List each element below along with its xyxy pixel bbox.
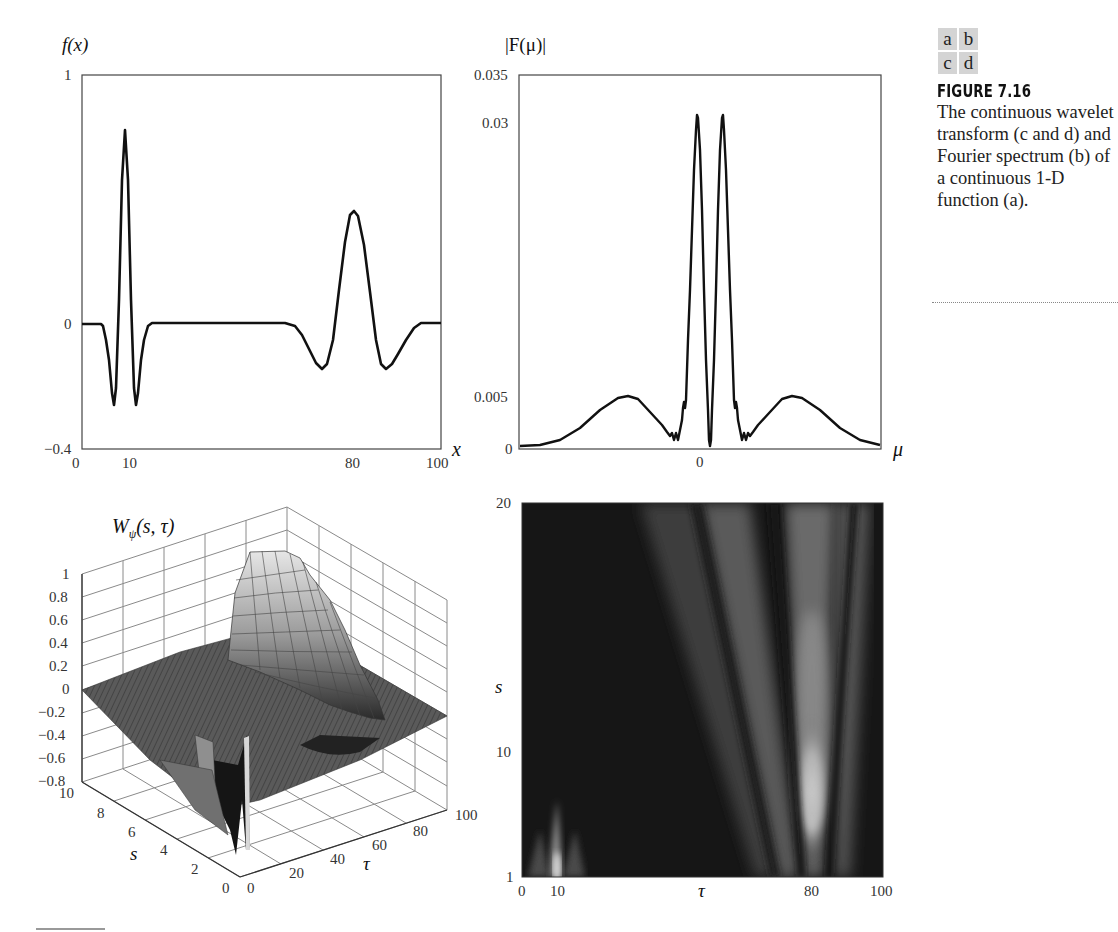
panel-d-xtick-10: 10 xyxy=(550,884,565,899)
panel-d-xtick-80: 80 xyxy=(804,884,819,899)
panel-d-ytick-20: 20 xyxy=(496,496,511,511)
panel-d-plot xyxy=(0,0,1118,932)
panel-d-xtick-0: 0 xyxy=(518,884,526,899)
panel-d-xlabel: τ xyxy=(698,880,705,902)
panel-d-ytick-10: 10 xyxy=(496,745,511,760)
panel-d-ytick-1: 1 xyxy=(506,870,514,885)
page-corner-bar xyxy=(36,928,105,930)
panel-d-ylabel: s xyxy=(495,676,502,698)
panel-d-xtick-100: 100 xyxy=(870,884,893,899)
